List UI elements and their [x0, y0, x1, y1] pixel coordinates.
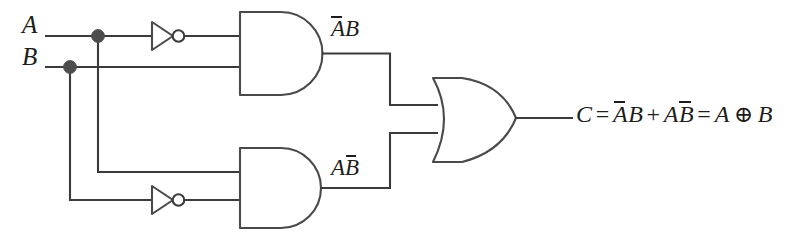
and-gate-top-body — [240, 12, 322, 95]
equals-sign-1: = — [592, 101, 613, 127]
xor-operand-b: B — [758, 101, 773, 127]
output-expression-label: C=AB+AB=A⊕B — [576, 101, 773, 126]
junction-dot-b — [64, 61, 77, 74]
and-gate-bottom-body — [240, 148, 321, 228]
and2-b-bar: B — [345, 155, 359, 179]
and-gate-top-output-label: AB — [331, 16, 359, 40]
plus-sign: + — [643, 101, 664, 127]
product2-a: A — [664, 101, 679, 127]
input-label-a: A — [22, 12, 37, 37]
xor-symbol-icon: ⊕ — [730, 101, 758, 127]
xor-operand-a: A — [715, 101, 730, 127]
not-gate-top-triangle — [152, 22, 173, 50]
and-gate-bottom-output-label: AB — [331, 155, 359, 179]
not-gate-bottom-bubble — [173, 194, 185, 206]
product1-a-bar: A — [613, 101, 628, 126]
logic-circuit-diagram: A B AB AB C=AB+AB=A⊕B — [0, 0, 799, 240]
product2-b-bar: B — [679, 101, 694, 126]
product1-b: B — [628, 101, 643, 127]
not-gate-bottom-triangle — [152, 186, 173, 214]
and2-a: A — [331, 155, 345, 180]
wire-b-branch-to-inverter — [70, 67, 152, 200]
output-c: C — [576, 101, 592, 127]
and1-b: B — [345, 16, 359, 41]
wire-and1-output-to-or — [323, 54, 438, 106]
junction-dot-a — [92, 30, 105, 43]
wire-a-branch-to-and2 — [98, 36, 240, 172]
and1-a-bar: A — [331, 16, 345, 40]
or-gate-body — [433, 78, 516, 162]
not-gate-top-bubble — [173, 30, 185, 42]
equals-sign-2: = — [694, 101, 715, 127]
input-label-b: B — [22, 44, 37, 69]
